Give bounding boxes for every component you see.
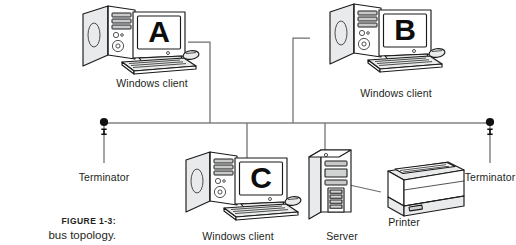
screen-letter-c: C	[250, 163, 272, 193]
terminator-left	[100, 118, 108, 163]
label-terminator-right: Terminator	[465, 172, 516, 183]
laser-printer	[388, 162, 464, 216]
figure-number: FIGURE 1-3:	[0, 215, 120, 228]
terminator-right	[486, 118, 494, 163]
drop-line-client-b	[293, 38, 310, 123]
figure-page: .o { fill:#ffffff; stroke:#1a1a1a; strok…	[0, 0, 516, 245]
computer-client-b	[330, 4, 446, 72]
label-client-a: Windows client	[116, 78, 187, 89]
computer-client-a	[83, 6, 200, 74]
label-client-b: Windows client	[360, 88, 431, 99]
label-server: Server	[326, 231, 358, 242]
label-terminator-left: Terminator	[79, 172, 130, 183]
figure-caption-text: bus topology.	[0, 229, 120, 242]
computer-client-c	[186, 152, 302, 220]
diagram-canvas: .o { fill:#ffffff; stroke:#1a1a1a; strok…	[0, 0, 516, 245]
server-tower	[309, 150, 351, 219]
screen-letter-b: B	[394, 15, 416, 45]
label-client-c: Windows client	[202, 231, 273, 242]
bus-topology-illustration: .o { fill:#ffffff; stroke:#1a1a1a; strok…	[0, 0, 516, 245]
label-printer: Printer	[388, 217, 420, 228]
screen-letter-a: A	[148, 17, 170, 47]
figure-caption: FIGURE 1-3: bus topology.	[0, 215, 120, 241]
